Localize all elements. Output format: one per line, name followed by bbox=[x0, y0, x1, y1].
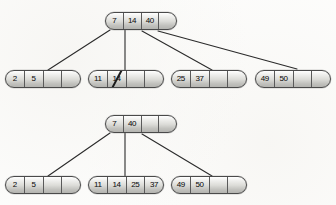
btree-node-bottom-root[interactable]: 7 40 bbox=[105, 115, 177, 133]
btree-cell[interactable]: 7 bbox=[106, 13, 124, 29]
btree-node-top-leaf-4[interactable]: 49 50 bbox=[255, 70, 331, 88]
btree-cell[interactable]: 5 bbox=[25, 177, 44, 193]
btree-node-bottom-leaf-3[interactable]: 49 50 bbox=[171, 176, 247, 194]
btree-node-top-leaf-3[interactable]: 25 37 bbox=[171, 70, 247, 88]
btree-cell-empty[interactable] bbox=[159, 13, 176, 29]
btree-cell[interactable]: 25 bbox=[172, 71, 191, 87]
btree-cell[interactable]: 14 bbox=[124, 13, 142, 29]
btree-cell-empty[interactable] bbox=[127, 71, 146, 87]
btree-cell[interactable]: 2 bbox=[6, 71, 25, 87]
btree-cell[interactable]: 40 bbox=[142, 13, 160, 29]
btree-cell[interactable]: 37 bbox=[145, 177, 163, 193]
btree-cell-value: 14 bbox=[112, 75, 121, 83]
edge-top-root-to-leaf-1 bbox=[48, 30, 110, 70]
btree-cell-empty[interactable] bbox=[294, 71, 313, 87]
btree-cell-empty[interactable] bbox=[44, 177, 63, 193]
btree-cell[interactable]: 50 bbox=[275, 71, 294, 87]
btree-cell-struck[interactable]: 14 bbox=[108, 71, 127, 87]
btree-cell[interactable]: 5 bbox=[25, 71, 44, 87]
btree-cell[interactable]: 2 bbox=[6, 177, 25, 193]
btree-cell-empty[interactable] bbox=[228, 177, 246, 193]
btree-cell[interactable]: 25 bbox=[127, 177, 146, 193]
btree-cell[interactable]: 14 bbox=[108, 177, 127, 193]
btree-cell-empty[interactable] bbox=[210, 71, 229, 87]
btree-cell[interactable]: 50 bbox=[191, 177, 210, 193]
btree-cell-empty[interactable] bbox=[210, 177, 229, 193]
btree-cell-empty[interactable] bbox=[62, 177, 80, 193]
btree-cell-empty[interactable] bbox=[159, 116, 176, 132]
btree-cell-empty[interactable] bbox=[312, 71, 330, 87]
btree-node-top-leaf-2[interactable]: 11 14 bbox=[88, 70, 164, 88]
btree-node-top-leaf-1[interactable]: 2 5 bbox=[5, 70, 81, 88]
edge-bottom-root-to-leaf-1 bbox=[48, 133, 110, 176]
btree-node-top-root[interactable]: 7 14 40 bbox=[105, 12, 177, 30]
edge-top-root-to-leaf-3 bbox=[142, 31, 212, 70]
edge-top-root-to-leaf-4 bbox=[158, 31, 297, 69]
btree-node-bottom-leaf-1[interactable]: 2 5 bbox=[5, 176, 81, 194]
btree-cell-empty[interactable] bbox=[142, 116, 160, 132]
btree-cell-empty[interactable] bbox=[145, 71, 163, 87]
btree-figure: 7 14 40 2 5 11 14 25 37 49 50 7 40 bbox=[0, 0, 336, 205]
edge-bottom-root-to-leaf-3 bbox=[142, 134, 212, 176]
btree-cell[interactable]: 49 bbox=[256, 71, 275, 87]
btree-cell[interactable]: 37 bbox=[191, 71, 210, 87]
btree-cell-empty[interactable] bbox=[62, 71, 80, 87]
btree-cell[interactable]: 40 bbox=[124, 116, 142, 132]
btree-cell[interactable]: 49 bbox=[172, 177, 191, 193]
btree-cell[interactable]: 11 bbox=[89, 71, 108, 87]
btree-cell[interactable]: 11 bbox=[89, 177, 108, 193]
btree-node-bottom-leaf-2[interactable]: 11 14 25 37 bbox=[88, 176, 164, 194]
btree-cell-empty[interactable] bbox=[44, 71, 63, 87]
btree-cell[interactable]: 7 bbox=[106, 116, 124, 132]
btree-cell-empty[interactable] bbox=[228, 71, 246, 87]
tree-edge-layer bbox=[0, 0, 336, 205]
